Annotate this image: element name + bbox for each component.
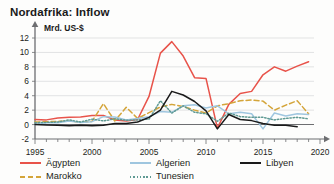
- y-axis-arrow-icon: [32, 21, 39, 27]
- legend-item-libyen[interactable]: Libyen: [240, 158, 293, 168]
- chart-legend: Ägypten Marokko Algerien Tunesien Libyen: [12, 158, 324, 182]
- legend-label-libyen: Libyen: [266, 158, 293, 168]
- x-axis-tick-label: 2000: [83, 147, 102, 157]
- y-axis-tick-label: -2: [22, 134, 30, 144]
- legend-swatch-algerien: [130, 162, 151, 166]
- legend-swatch-marokko: [20, 176, 41, 178]
- y-axis-tick-label: 4: [24, 91, 29, 101]
- legend-item-marokko[interactable]: Marokko: [20, 171, 82, 181]
- line-chart-plot: -2024681012199520002005201020152020: [0, 0, 334, 184]
- legend-label-marokko: Marokko: [46, 171, 82, 181]
- y-axis-tick-label: 6: [24, 76, 29, 86]
- series-line-gypten: [35, 42, 309, 129]
- legend-label-algerien: Algerien: [156, 158, 190, 168]
- x-axis-tick-label: 2020: [311, 147, 330, 157]
- legend-swatch-tunesien: [130, 176, 151, 178]
- legend-item-tunesien[interactable]: Tunesien: [130, 171, 194, 181]
- legend-swatch-libyen: [240, 162, 261, 166]
- legend-label-agypten: Ägypten: [46, 158, 80, 168]
- legend-item-agypten[interactable]: Ägypten: [20, 158, 80, 168]
- legend-item-algerien[interactable]: Algerien: [130, 158, 190, 168]
- chart-figure: Nordafrika: Inflow Mrd. US-$ -2024681012…: [0, 0, 334, 184]
- x-axis-tick-label: 2005: [140, 147, 159, 157]
- y-axis-tick-label: 2: [24, 105, 29, 115]
- x-axis-tick-label: 1995: [26, 147, 45, 157]
- x-axis-arrow-icon: [324, 136, 330, 143]
- x-axis-tick-label: 2010: [197, 147, 216, 157]
- y-axis-tick-label: 10: [20, 47, 30, 57]
- y-axis-tick-label: 0: [24, 120, 29, 130]
- y-axis-tick-label: 12: [20, 33, 30, 43]
- legend-label-tunesien: Tunesien: [156, 171, 194, 181]
- legend-swatch-agypten: [20, 162, 41, 166]
- x-axis-tick-label: 2015: [254, 147, 273, 157]
- y-axis-tick-label: 8: [24, 62, 29, 72]
